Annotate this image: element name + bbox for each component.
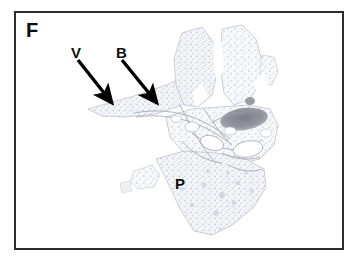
tissue-fragment-small — [120, 181, 132, 193]
label-parenchyma: P — [175, 176, 185, 191]
label-bronchiole: B — [116, 45, 127, 60]
dense-spot-upper — [245, 97, 255, 105]
label-vessel: V — [71, 45, 81, 60]
tissue-section-graphic — [16, 13, 342, 248]
panel-letter-label: F — [26, 20, 38, 40]
micrograph-image — [16, 13, 342, 248]
figure-panel: F V B P — [0, 0, 359, 266]
